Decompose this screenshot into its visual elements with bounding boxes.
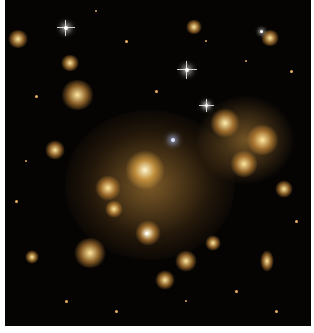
galaxy-cluster-photo	[5, 0, 311, 326]
